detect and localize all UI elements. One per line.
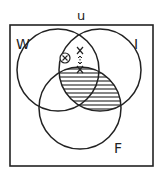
venn-diagram: u W I F [0, 0, 162, 177]
set-w-label: W [16, 36, 30, 52]
universe-label: u [77, 8, 85, 23]
circled-x-mark [60, 53, 70, 63]
set-f-label: F [114, 140, 122, 156]
set-i-label: I [134, 36, 138, 52]
x-mark-upper [77, 47, 83, 54]
dotted-arrow-connector [78, 56, 82, 64]
